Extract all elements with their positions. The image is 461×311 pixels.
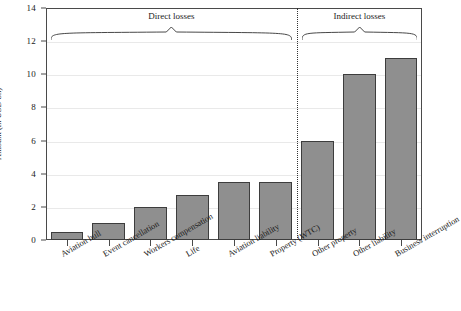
y-tick-label: 10 (18, 69, 36, 79)
group-divider (297, 8, 298, 240)
group-brace (51, 26, 292, 42)
y-tick-label: 8 (18, 102, 36, 112)
group-label: Direct losses (148, 11, 194, 21)
group-label: Indirect losses (333, 11, 385, 21)
bar-other-liability (343, 74, 376, 240)
y-tick-label: 6 (18, 136, 36, 146)
y-axis-title: Amount (in USD bn) (0, 88, 3, 160)
y-tick-label: 2 (18, 202, 36, 212)
y-tick-label: 14 (18, 3, 36, 13)
bar-business-interruption (385, 58, 418, 240)
group-brace (302, 26, 417, 42)
y-tick-label: 0 (18, 235, 36, 245)
bars-layer (46, 8, 422, 240)
bar-aviation-liability (218, 182, 251, 240)
y-tick-label: 4 (18, 169, 36, 179)
x-tick-label: Life (184, 243, 201, 259)
y-tick-label: 12 (18, 36, 36, 46)
